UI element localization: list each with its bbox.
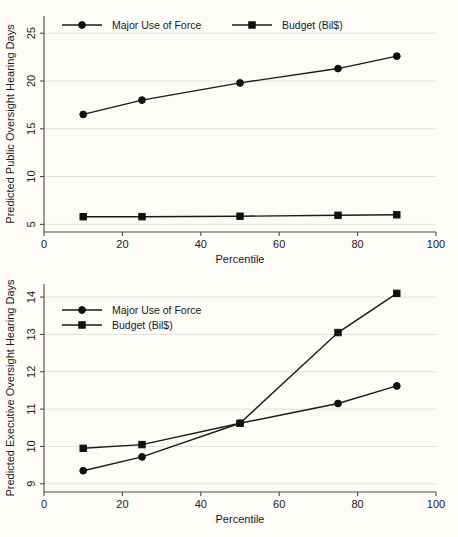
data-point-marker bbox=[394, 212, 400, 218]
data-point-marker bbox=[393, 53, 400, 60]
x-axis-title: Percentile bbox=[216, 513, 265, 525]
executive-oversight-chart-panel: 91011121314020406080100PercentilePredict… bbox=[0, 268, 458, 537]
x-tick-label: 80 bbox=[351, 498, 363, 510]
x-tick-label: 60 bbox=[273, 498, 285, 510]
x-tick-label: 40 bbox=[195, 498, 207, 510]
x-tick-label: 0 bbox=[41, 498, 47, 510]
x-tick-label: 40 bbox=[195, 238, 207, 250]
legend-marker bbox=[79, 22, 86, 29]
legend-marker bbox=[79, 307, 86, 314]
legend-label: Major Use of Force bbox=[112, 304, 201, 316]
y-tick-label: 13 bbox=[25, 328, 37, 340]
y-tick-label: 25 bbox=[25, 27, 37, 39]
data-point-marker bbox=[139, 441, 145, 447]
data-point-marker bbox=[335, 400, 342, 407]
x-tick-label: 0 bbox=[41, 238, 47, 250]
series-line-1 bbox=[83, 386, 397, 471]
data-point-marker bbox=[237, 80, 244, 87]
y-tick-label: 20 bbox=[25, 75, 37, 87]
data-point-marker bbox=[80, 445, 86, 451]
x-tick-label: 60 bbox=[273, 238, 285, 250]
y-tick-label: 9 bbox=[25, 481, 37, 487]
x-tick-label: 20 bbox=[116, 238, 128, 250]
y-tick-label: 10 bbox=[25, 440, 37, 452]
y-tick-label: 5 bbox=[25, 221, 37, 227]
data-point-marker bbox=[394, 290, 400, 296]
y-axis-title: Predicted Public Oversight Hearing Days bbox=[4, 24, 16, 224]
legend-label: Budget (Bil$) bbox=[112, 319, 173, 331]
data-point-marker bbox=[335, 329, 341, 335]
y-axis-title: Predicted Executive Oversight Hearing Da… bbox=[4, 279, 16, 497]
legend-marker bbox=[79, 322, 85, 328]
x-tick-label: 20 bbox=[116, 498, 128, 510]
x-tick-label: 100 bbox=[427, 498, 445, 510]
legend-label: Budget (Bil$) bbox=[282, 19, 343, 31]
data-point-marker bbox=[139, 97, 146, 104]
data-point-marker bbox=[237, 420, 243, 426]
data-point-marker bbox=[80, 111, 87, 118]
data-point-marker bbox=[80, 214, 86, 220]
y-tick-label: 11 bbox=[25, 403, 37, 414]
legend-label: Major Use of Force bbox=[112, 19, 201, 31]
data-point-marker bbox=[335, 65, 342, 72]
data-point-marker bbox=[139, 214, 145, 220]
public-oversight-chart-panel: 510152025020406080100PercentilePredicted… bbox=[0, 0, 458, 268]
legend-marker bbox=[249, 22, 255, 28]
x-tick-label: 100 bbox=[427, 238, 445, 250]
y-tick-label: 12 bbox=[25, 366, 37, 378]
data-point-marker bbox=[237, 213, 243, 219]
y-tick-label: 14 bbox=[25, 291, 37, 303]
x-axis-title: Percentile bbox=[216, 253, 265, 265]
executive-oversight-plot: 91011121314020406080100PercentilePredict… bbox=[0, 268, 458, 537]
executive-oversight-svg: 91011121314020406080100PercentilePredict… bbox=[0, 268, 458, 537]
public-oversight-plot: 510152025020406080100PercentilePredicted… bbox=[0, 0, 458, 268]
public-oversight-svg: 510152025020406080100PercentilePredicted… bbox=[0, 0, 458, 268]
data-point-marker bbox=[80, 467, 87, 474]
y-tick-label: 15 bbox=[25, 123, 37, 135]
data-point-marker bbox=[335, 212, 341, 218]
x-tick-label: 80 bbox=[351, 238, 363, 250]
data-point-marker bbox=[393, 383, 400, 390]
y-tick-label: 10 bbox=[25, 170, 37, 182]
data-point-marker bbox=[139, 453, 146, 460]
